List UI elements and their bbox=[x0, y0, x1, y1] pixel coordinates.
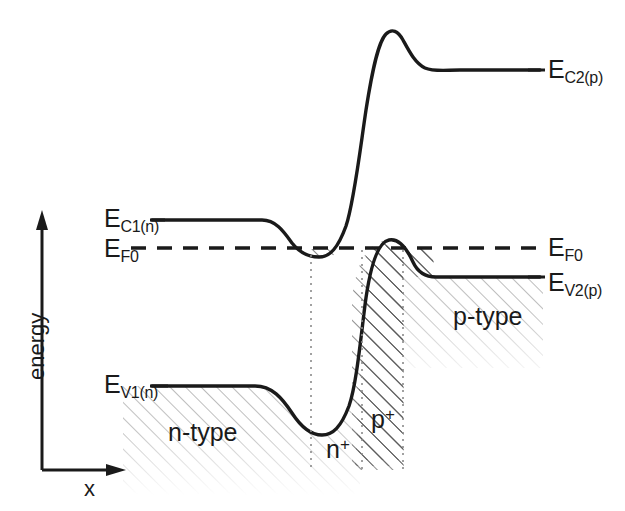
region-label-n-plus-text: n bbox=[326, 435, 340, 463]
region-label-p-plus: p+ bbox=[371, 407, 395, 432]
label-ev2p-prefix: E bbox=[548, 268, 564, 296]
region-label-p-plus-sup: + bbox=[385, 405, 395, 424]
label-ef0-left-prefix: E bbox=[104, 234, 120, 262]
label-ef0-right-prefix: E bbox=[548, 233, 564, 261]
label-ef0-right-subscript: F0 bbox=[564, 247, 582, 264]
region-label-n-plus-sup: + bbox=[340, 435, 350, 454]
region-label-p-type-text: p-type bbox=[453, 302, 522, 330]
region-label-n-plus: n+ bbox=[326, 437, 350, 462]
label-ev1n-prefix: E bbox=[104, 370, 120, 398]
axis-lines bbox=[42, 222, 112, 470]
label-ec2p-prefix: E bbox=[548, 55, 564, 83]
energy-band-diagram-figure: EC1(n) EF0 EV1(n) EC2(p) EF0 EV2(p) n-ty… bbox=[0, 0, 625, 511]
region-label-n-type: n-type bbox=[168, 420, 237, 445]
label-ec2p-subscript: C2(p) bbox=[564, 69, 603, 86]
label-ev1n: EV1(n) bbox=[104, 372, 158, 397]
label-ev2p: EV2(p) bbox=[548, 270, 602, 295]
label-ef0-left: EF0 bbox=[104, 236, 139, 261]
band-diagram-canvas bbox=[0, 0, 625, 511]
label-ec1n: EC1(n) bbox=[104, 206, 159, 231]
y-axis-label: energy bbox=[26, 313, 48, 380]
label-ec1n-subscript: C1(n) bbox=[120, 218, 159, 235]
y-axis-arrowhead bbox=[36, 210, 48, 230]
region-label-p-plus-text: p bbox=[371, 405, 385, 433]
label-ec1n-prefix: E bbox=[104, 204, 120, 232]
label-ef0-left-subscript: F0 bbox=[120, 248, 138, 265]
label-ev2p-subscript: V2(p) bbox=[564, 282, 602, 299]
conduction-band-curve bbox=[152, 31, 540, 257]
region-label-n-type-text: n-type bbox=[168, 418, 237, 446]
label-ef0-right: EF0 bbox=[548, 235, 583, 260]
hatch-region-n-type-valence bbox=[123, 380, 360, 495]
label-ec2p: EC2(p) bbox=[548, 57, 603, 82]
x-axis-label: x bbox=[84, 478, 95, 500]
region-label-p-type: p-type bbox=[453, 304, 522, 329]
label-ev1n-subscript: V1(n) bbox=[120, 384, 158, 401]
